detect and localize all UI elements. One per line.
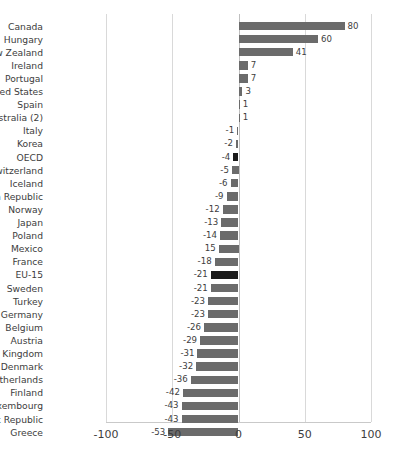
value-label: -43 [164,399,178,412]
value-label: -23 [191,295,205,308]
chart-row: Mexico15 [106,242,371,255]
bar [237,127,238,135]
value-label: 7 [251,72,256,85]
value-label: 3 [245,85,250,98]
chart-row: United Kingdom-31 [106,347,371,360]
chart-row: Sweden-21 [106,282,371,295]
value-label: -1 [226,124,235,137]
value-label: -23 [191,308,205,321]
chart-row: Belgium-26 [106,321,371,334]
value-label: -29 [183,334,197,347]
bar [215,258,239,266]
value-label: -31 [180,347,194,360]
bar [236,140,239,148]
chart-row: New Zealand41 [106,46,371,59]
bar [208,297,238,305]
value-label: -5 [220,164,229,177]
chart-row: Turkey-23 [106,295,371,308]
bar [211,284,239,292]
chart-row: Netherlands-36 [106,373,371,386]
category-label: EU-15 [0,268,43,281]
chart-row: Italy-1 [106,124,371,137]
plot-area: Canada80Hungary60New Zealand41Ireland7Po… [106,14,371,422]
chart-row: EU-15-21 [106,268,371,281]
chart-row: OECD-4 [106,151,371,164]
chart-row: Japan-13 [106,216,371,229]
bar [196,362,238,370]
value-label: 7 [251,59,256,72]
category-label: Netherlands [0,373,43,386]
bar [211,271,239,279]
chart-row: Portugal7 [106,72,371,85]
chart-row: Norway-12 [106,203,371,216]
chart-row: Spain1 [106,98,371,111]
value-label: -9 [215,190,224,203]
chart-row: Ireland7 [106,59,371,72]
chart-row: Canada80 [106,20,371,33]
value-label: 15 [205,242,216,255]
chart-row: Poland-14 [106,229,371,242]
value-label: -21 [194,268,208,281]
category-label: Portugal [0,72,43,85]
value-label: -18 [198,255,212,268]
value-label: -6 [219,177,228,190]
category-label: Switzerland [0,164,43,177]
x-tick-label: -50 [142,428,202,441]
bar [231,179,239,187]
x-tick-label: 0 [209,428,269,441]
value-label: -14 [203,229,217,242]
value-label: -42 [166,386,180,399]
chart-row: Iceland-6 [106,177,371,190]
category-label: Korea [0,137,43,150]
category-label: Ireland [0,59,43,72]
category-label: Slovak Republic [0,413,43,426]
category-label: Sweden [0,282,43,295]
value-label: -36 [174,373,188,386]
x-tick-label: 50 [275,428,335,441]
bar [239,61,248,69]
chart-row: Germany-23 [106,308,371,321]
value-label: 1 [243,111,248,124]
category-label: United States [0,85,43,98]
bar [204,323,238,331]
category-label: Italy [0,124,43,137]
bar [191,376,239,384]
bar [239,74,248,82]
chart-row: Czech Republic-9 [106,190,371,203]
value-label: 60 [321,33,332,46]
value-label: -4 [222,151,231,164]
category-label: Poland [0,229,43,242]
category-label: Greece [0,426,43,439]
bar [200,336,238,344]
category-label: Luxembourg [0,399,43,412]
x-tick-label: 100 [341,428,397,441]
chart-row: Switzerland-5 [106,164,371,177]
chart-row: Austria-29 [106,334,371,347]
bar [239,114,240,122]
category-label: Iceland [0,177,43,190]
category-label: Denmark [0,360,43,373]
bar [182,415,239,423]
category-label: Canada [0,20,43,33]
chart-row: Hungary60 [106,33,371,46]
category-label: Germany [0,308,43,321]
bar [223,205,239,213]
value-label: -32 [179,360,193,373]
bar [208,310,238,318]
category-label: France [0,255,43,268]
value-label: -21 [194,282,208,295]
chart-row: Australia (2)1 [106,111,371,124]
bar [239,35,319,43]
category-label: Austria [0,334,43,347]
chart-row: France-18 [106,255,371,268]
bar [239,100,240,108]
category-label: Czech Republic [0,190,43,203]
bar [239,22,345,30]
bar [233,153,238,161]
bar [227,192,239,200]
chart-row: Finland-42 [106,386,371,399]
value-label: -2 [224,137,233,150]
gridline-100 [371,14,372,422]
value-label: -43 [164,413,178,426]
bar [183,389,239,397]
